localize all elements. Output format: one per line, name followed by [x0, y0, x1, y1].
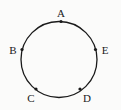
point-markers — [20, 20, 97, 91]
point-label-a: A — [57, 8, 65, 19]
figure-canvas: A B C D E — [0, 0, 121, 110]
circle-outline — [21, 22, 97, 98]
point-label-d: D — [83, 93, 91, 104]
point-marker-b — [20, 48, 23, 51]
point-label-e: E — [102, 45, 109, 56]
point-marker-d — [78, 87, 81, 90]
point-marker-a — [59, 20, 62, 23]
point-marker-e — [94, 48, 97, 51]
point-label-c: C — [27, 93, 34, 104]
point-marker-c — [34, 87, 37, 90]
point-label-b: B — [9, 45, 16, 56]
